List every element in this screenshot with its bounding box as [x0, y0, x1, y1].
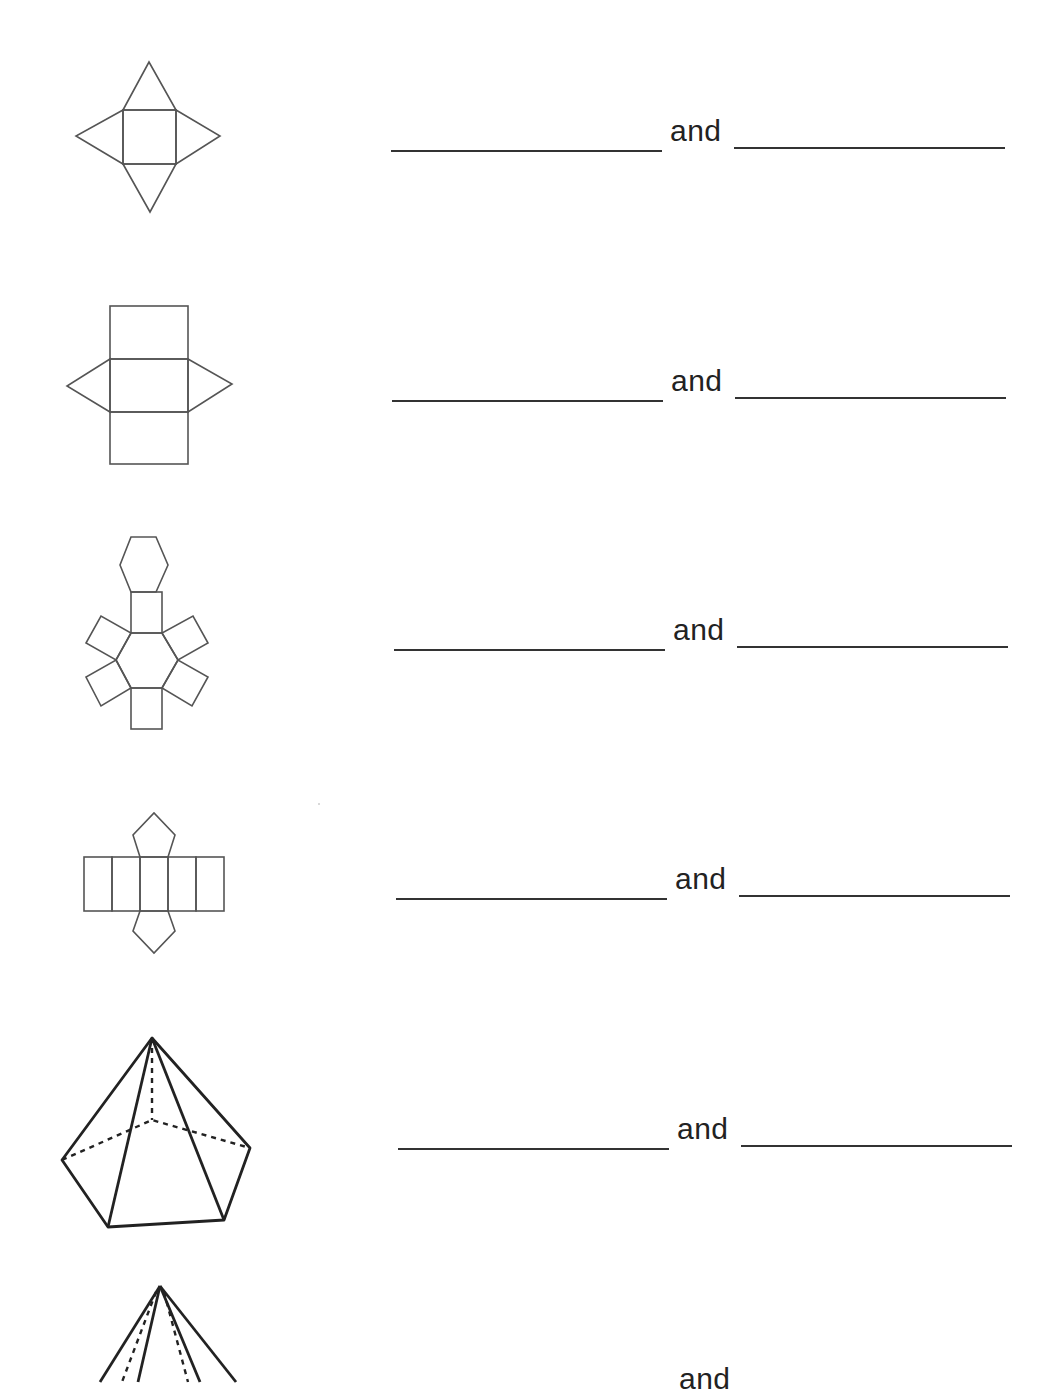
answer-row-6: and: [400, 1360, 1014, 1393]
pentagonal-pyramid-figure: [58, 1034, 254, 1230]
scan-speck: [318, 803, 320, 805]
answer-blank-3a[interactable]: [394, 649, 665, 651]
and-label: and: [677, 1114, 729, 1144]
square-pyramid-net-figure: [74, 60, 224, 215]
answer-row-5: and: [398, 1110, 1012, 1150]
and-label: and: [670, 116, 722, 146]
pyramid-solid-partial-figure: [98, 1284, 248, 1384]
answer-row-2: and: [392, 362, 1006, 402]
answer-blank-2a[interactable]: [392, 400, 663, 402]
and-label: and: [673, 615, 725, 645]
answer-blank-4a[interactable]: [396, 898, 667, 900]
and-label: and: [671, 366, 723, 396]
answer-row-1: and: [391, 112, 1005, 152]
answer-blank-5b[interactable]: [741, 1145, 1012, 1147]
answer-blank-1a[interactable]: [391, 150, 662, 152]
and-label: and: [675, 864, 727, 894]
answer-blank-5a[interactable]: [398, 1148, 669, 1150]
answer-blank-2b[interactable]: [735, 397, 1006, 399]
pentagonal-prism-net-figure: [83, 811, 225, 957]
answer-row-3: and: [394, 611, 1008, 651]
and-label: and: [679, 1364, 731, 1393]
hexagonal-prism-net-figure: [84, 536, 219, 736]
answer-row-4: and: [396, 860, 1010, 900]
triangular-prism-net-figure: [66, 304, 234, 466]
answer-blank-4b[interactable]: [739, 895, 1010, 897]
answer-blank-3b[interactable]: [737, 646, 1008, 648]
answer-blank-1b[interactable]: [734, 147, 1005, 149]
